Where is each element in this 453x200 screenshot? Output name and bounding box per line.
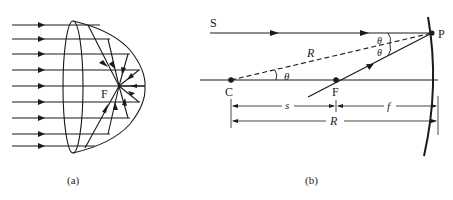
panel-a-parabolic-mirror [12, 21, 145, 153]
panel-a-focus-label: F [101, 87, 108, 101]
theta-axis-label: θ [284, 70, 290, 82]
center-label-c: C [225, 85, 233, 99]
distance-r-label: R [329, 114, 338, 128]
optics-figure: F (a) [0, 0, 453, 200]
panel-b-spherical-mirror [200, 17, 438, 156]
focus-label-f: F [332, 85, 339, 99]
center-point-c [229, 78, 233, 82]
theta-axis-arc [275, 70, 277, 80]
aperture-ellipse [63, 21, 83, 153]
panel-a-caption: (a) [67, 174, 80, 187]
distance-s-label: s [285, 99, 289, 111]
theta-top-arc [388, 33, 391, 44]
radius-label: R [306, 46, 315, 60]
theta-top-label: θ [377, 35, 382, 46]
point-p [430, 31, 434, 35]
distance-f-label: f [387, 100, 392, 112]
source-label-s: S [210, 16, 217, 30]
theta-bottom-label: θ [377, 47, 382, 58]
radius-dashed-line [231, 33, 432, 80]
focus-point-f [334, 78, 338, 82]
mirror-arc [424, 17, 433, 156]
panel-b-caption: (b) [305, 174, 318, 187]
point-label-p: P [438, 27, 445, 41]
